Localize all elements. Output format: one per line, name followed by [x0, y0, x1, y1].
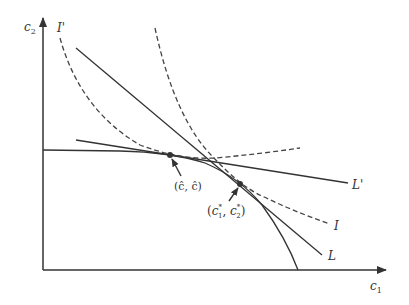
- optimum-point: [237, 181, 243, 187]
- y-axis-label: c2: [24, 20, 36, 36]
- golden-rule-label: (ĉ, ĉ): [174, 180, 202, 193]
- golden-rule-pointer: [172, 159, 181, 176]
- indifference-curve-i-prime-label: I': [56, 21, 65, 35]
- economics-diagram: c2 c1 L' L I' I (ĉ, ĉ) (c*1, c*2): [0, 0, 409, 305]
- indifference-curve-i-label: I: [333, 219, 339, 233]
- optimum-label: (c*1, c*2): [207, 203, 245, 220]
- optimum-pointer: [229, 188, 238, 201]
- indifference-curve-i: [155, 28, 330, 224]
- line-l-label: L: [327, 249, 336, 263]
- frontier-curve: [43, 150, 298, 270]
- golden-rule-point: [167, 152, 173, 158]
- x-axis-label: c1: [370, 279, 382, 295]
- line-l-prime: [76, 140, 348, 183]
- line-l-prime-label: L': [351, 178, 363, 192]
- indifference-curve-i-prime: [60, 38, 300, 158]
